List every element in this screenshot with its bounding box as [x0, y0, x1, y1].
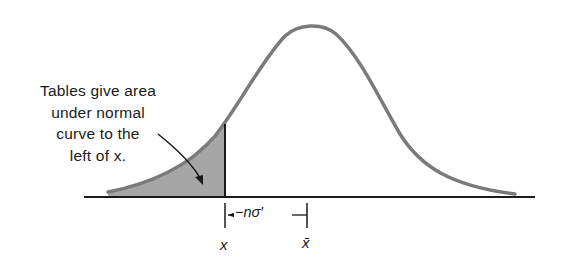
- distance-label: −nσ′: [234, 204, 264, 220]
- annotation-line: Tables give area: [26, 80, 170, 102]
- annotation-line: under normal: [26, 102, 170, 124]
- annotation-line: left of x.: [26, 145, 170, 167]
- annotation-text: Tables give area under normal curve to t…: [26, 80, 170, 166]
- mean-label: x̄: [302, 234, 310, 251]
- x-label: x: [220, 236, 228, 253]
- annotation-line: curve to the: [26, 123, 170, 145]
